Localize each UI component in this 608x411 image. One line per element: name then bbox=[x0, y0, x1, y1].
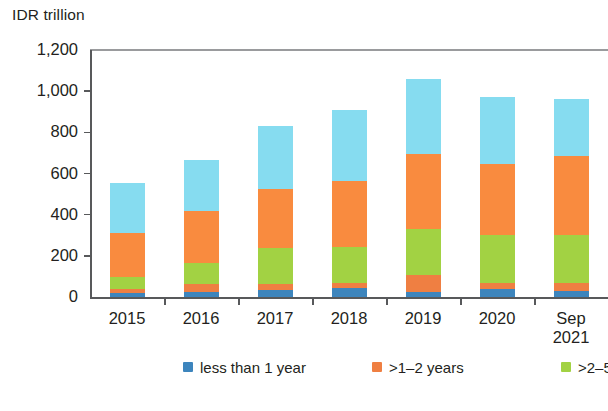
bar-segment bbox=[332, 110, 367, 181]
legend-item[interactable]: less than 1 year bbox=[183, 358, 358, 376]
x-axis-tick bbox=[312, 299, 314, 305]
legend-item-label: >1–2 years bbox=[389, 360, 464, 375]
x-axis-tick bbox=[386, 299, 388, 305]
bar-segment bbox=[406, 79, 441, 154]
bar-segment bbox=[184, 263, 219, 284]
legend-item-label: less than 1 year bbox=[200, 360, 306, 375]
bar-2016 bbox=[184, 160, 219, 297]
y-axis-tick-label: 0 bbox=[0, 287, 78, 306]
x-axis-tick bbox=[460, 299, 462, 305]
legend-item[interactable]: >1–2 years bbox=[372, 358, 547, 376]
bar-segment bbox=[258, 126, 293, 189]
bar-segment bbox=[184, 211, 219, 263]
bar-segment bbox=[110, 233, 145, 277]
bar-2019 bbox=[406, 79, 441, 297]
y-axis-unit-caption: IDR trillion bbox=[12, 6, 85, 24]
bar-2017 bbox=[258, 126, 293, 297]
bar-sep-2021 bbox=[554, 99, 589, 297]
bar-segment bbox=[184, 160, 219, 210]
y-axis-tick-label: 1,200 bbox=[0, 40, 78, 59]
chart-legend: less than 1 year>1–2 years>2–5 years>5–1… bbox=[183, 358, 563, 376]
y-axis-tick bbox=[84, 132, 91, 134]
bar-segment bbox=[406, 154, 441, 229]
legend-swatch-icon bbox=[561, 362, 571, 372]
bar-segment bbox=[480, 235, 515, 282]
bar-segment bbox=[406, 292, 441, 297]
bar-2018 bbox=[332, 110, 367, 297]
bar-segment bbox=[184, 284, 219, 292]
bar-segment bbox=[554, 235, 589, 282]
bar-segment bbox=[554, 283, 589, 291]
bar-segment bbox=[554, 291, 589, 297]
bar-segment bbox=[480, 164, 515, 235]
x-axis-line bbox=[90, 297, 608, 299]
y-axis-tick bbox=[84, 214, 91, 216]
y-axis-tick-label: 200 bbox=[0, 246, 78, 265]
y-axis-line bbox=[90, 50, 92, 299]
bar-segment bbox=[480, 289, 515, 297]
bar-segment bbox=[110, 293, 145, 297]
legend-swatch-icon bbox=[183, 362, 193, 372]
x-axis-tick bbox=[534, 299, 536, 305]
bar-segment bbox=[554, 99, 589, 156]
bar-segment bbox=[332, 288, 367, 297]
bar-segment bbox=[110, 183, 145, 233]
bar-segment bbox=[480, 97, 515, 164]
legend-item[interactable]: >2–5 years bbox=[561, 358, 608, 376]
x-axis-tick bbox=[238, 299, 240, 305]
bar-2015 bbox=[110, 183, 145, 297]
bar-segment bbox=[332, 181, 367, 247]
bar-segment bbox=[258, 189, 293, 248]
y-axis-tick bbox=[84, 90, 91, 92]
legend-swatch-icon bbox=[372, 362, 382, 372]
y-axis-tick-label: 800 bbox=[0, 122, 78, 141]
bar-segment bbox=[184, 292, 219, 297]
stacked-bar-chart: IDR trillion 02004006008001,0001,200 201… bbox=[0, 0, 608, 411]
bar-segment bbox=[258, 290, 293, 297]
y-axis-tick bbox=[84, 255, 91, 257]
legend-item-label: >2–5 years bbox=[578, 360, 608, 375]
y-axis-tick-label: 400 bbox=[0, 205, 78, 224]
y-axis-tick-label: 600 bbox=[0, 164, 78, 183]
bar-segment bbox=[406, 229, 441, 275]
plot-top-border bbox=[90, 49, 608, 51]
bar-segment bbox=[110, 277, 145, 288]
y-axis-tick bbox=[84, 173, 91, 175]
bar-segment bbox=[332, 247, 367, 283]
bar-segment bbox=[554, 156, 589, 235]
x-axis-tick-label: Sep 2021 bbox=[526, 309, 608, 347]
x-axis-tick bbox=[164, 299, 166, 305]
bar-segment bbox=[406, 275, 441, 291]
y-axis-tick-label: 1,000 bbox=[0, 81, 78, 100]
bar-2020 bbox=[480, 97, 515, 297]
bar-segment bbox=[258, 248, 293, 284]
